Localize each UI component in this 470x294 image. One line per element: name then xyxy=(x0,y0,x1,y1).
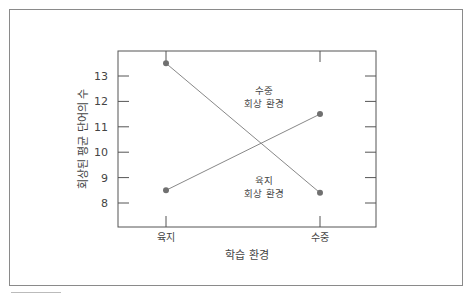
annotation-underwater-line1: 수중 xyxy=(255,85,273,96)
y-tick-label: 13 xyxy=(94,70,108,83)
y-axis-label: 회상된 평균 단어의 수 xyxy=(77,89,90,190)
x-axis-label: 학습 환경 xyxy=(225,249,269,262)
plot-area xyxy=(118,51,376,227)
y-tick-label: 11 xyxy=(94,121,108,134)
series-line xyxy=(166,114,320,190)
data-point xyxy=(317,111,323,117)
annotation-underwater-line2: 회상 환경 xyxy=(244,98,283,109)
y-tick-label: 8 xyxy=(101,197,108,210)
x-tick-label-land: 육지 xyxy=(157,232,175,243)
annotation-land-line1: 육지 xyxy=(255,175,273,186)
y-tick-label: 9 xyxy=(101,172,108,185)
axis-ticks: 8910111213 xyxy=(94,51,376,227)
data-point xyxy=(317,190,323,196)
x-tick-label-underwater: 수중 xyxy=(311,232,329,243)
data-point xyxy=(163,60,169,66)
series-lines xyxy=(163,60,323,196)
series-line xyxy=(166,63,320,193)
y-tick-label: 10 xyxy=(94,146,108,159)
data-point xyxy=(163,187,169,193)
annotation-land-line2: 회상 환경 xyxy=(244,188,283,199)
y-tick-label: 12 xyxy=(94,95,108,108)
line-chart: 8910111213 수중 회상 환경 육지 회상 환경 육지 수중 학습 환경… xyxy=(0,0,470,294)
